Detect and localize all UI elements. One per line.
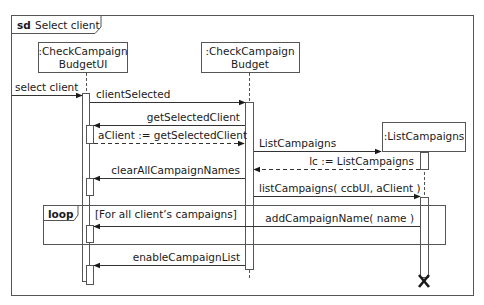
message-label: addCampaignName( name ) bbox=[265, 212, 414, 224]
message-label: ListCampaigns bbox=[259, 137, 336, 149]
message-label: enableCampaignList bbox=[133, 251, 240, 263]
message-select-client[interactable]: select client bbox=[12, 81, 82, 96]
loop-guard: [For all client’s campaigns] bbox=[95, 208, 237, 220]
lifeline-name-line1: :CheckCampaign bbox=[38, 45, 127, 57]
message-create-listcampaigns[interactable]: ListCampaigns bbox=[254, 137, 381, 152]
message-label: aClient := getSelectedClient bbox=[98, 129, 247, 141]
message-list-campaigns[interactable]: listCampaigns( ccbUI, aClient ) bbox=[254, 182, 421, 197]
frame-title: Select client bbox=[35, 19, 100, 31]
message-label: clearAllCampaignNames bbox=[111, 164, 240, 176]
lifeline-listcampaigns[interactable]: :ListCampaigns bbox=[383, 123, 466, 152]
message-enable-campaign-list[interactable]: enableCampaignList bbox=[94, 251, 245, 266]
lifeline-name-line2: BudgetUI bbox=[59, 58, 108, 70]
loop-operator: loop bbox=[48, 208, 74, 220]
lifeline-name-line2: Budget bbox=[231, 58, 269, 70]
message-label: clientSelected bbox=[96, 88, 170, 100]
message-label: select client bbox=[15, 81, 78, 93]
message-get-selected-client[interactable]: getSelectedClient bbox=[94, 111, 245, 126]
lifeline-name: :ListCampaigns bbox=[384, 130, 465, 142]
message-clear-all-campaign-names[interactable]: clearAllCampaignNames bbox=[94, 164, 245, 179]
message-client-selected[interactable]: clientSelected bbox=[90, 88, 245, 103]
lifeline-name-line1: :CheckCampaign bbox=[205, 45, 294, 57]
lifeline-checkcampaignbudget[interactable]: :CheckCampaign Budget bbox=[202, 43, 300, 73]
frame-keyword: sd bbox=[17, 19, 31, 31]
message-label: getSelectedClient bbox=[147, 111, 240, 123]
message-aclient-reply[interactable]: aClient := getSelectedClient bbox=[94, 129, 247, 144]
message-lc-reply[interactable]: lc := ListCampaigns bbox=[254, 155, 420, 170]
lifeline-checkcampaignbudgetui[interactable]: :CheckCampaign BudgetUI bbox=[38, 43, 127, 73]
message-label: listCampaigns( ccbUI, aClient ) bbox=[259, 182, 421, 194]
message-label: lc := ListCampaigns bbox=[309, 155, 414, 167]
